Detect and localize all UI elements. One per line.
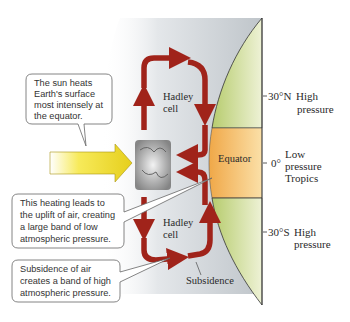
latitude-30n-line-1: High [296, 90, 319, 102]
latitude-0-line-3: Tropics [285, 172, 318, 184]
hadley-north-label-2: cell [163, 103, 178, 114]
callout-subsidence-line-3: atmospheric pressure. [20, 288, 111, 298]
latitude-30n-tick: 30°N [268, 90, 291, 102]
callout-sun-line-2: Earth's surface [34, 89, 95, 99]
latitude-0-line-1: Low [285, 148, 305, 160]
hadley-south-label-1: Hadley [163, 217, 194, 228]
latitude-0-line-2: pressure [285, 160, 322, 172]
sun-energy-arrow [50, 144, 132, 182]
hadley-south-label-2: cell [163, 229, 178, 240]
callout-uplift-line-2: the uplift of air, creating [20, 210, 115, 220]
latitude-30s-line-1: High [294, 226, 317, 238]
latitude-30s: 30°S High pressure [263, 226, 331, 250]
latitude-30s-tick: 30°S [268, 226, 290, 238]
latitude-30n: 30°N High pressure [263, 90, 334, 115]
equator-label: Equator [218, 153, 252, 164]
hadley-north-label-1: Hadley [163, 91, 194, 102]
latitude-30s-line-2: pressure [294, 238, 331, 250]
callout-uplift-line-4: atmospheric pressure. [20, 234, 111, 244]
callout-sun-line-4: the equator. [34, 111, 83, 121]
callout-uplift-line-1: This heating leads to [20, 198, 105, 208]
subsidence-label: Subsidence [186, 275, 234, 286]
hadley-cell-diagram: The sun heatsEarth's surfacemost intense… [0, 0, 350, 322]
callout-sun-heating: The sun heatsEarth's surfacemost intense… [26, 74, 112, 146]
callout-sun-line-3: most intensely at [34, 100, 103, 110]
callout-subsidence-line-2: creates a band of high [20, 276, 111, 286]
latitude-0-tick: 0° [271, 157, 281, 169]
latitude-0: 0° Low pressure Tropics [263, 148, 322, 184]
callout-subsidence-line-1: Subsidence of air [20, 264, 91, 274]
latitude-30n-line-2: pressure [297, 103, 334, 115]
callout-sun-line-1: The sun heats [34, 78, 93, 88]
callout-uplift-line-3: a large band of low [20, 222, 98, 232]
convection-cloud [135, 140, 171, 190]
